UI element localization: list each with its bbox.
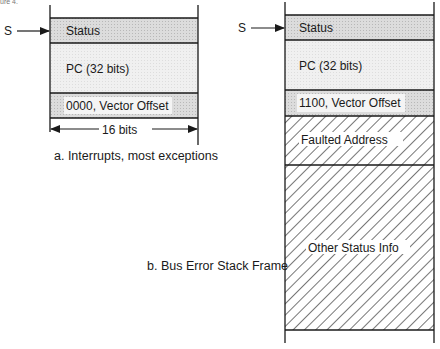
frame-b-stack-pointer-label: S: [238, 21, 246, 35]
frame-a: Status PC (32 bits) 0000, Vector Offset …: [4, 5, 218, 163]
frame-b-faulted-address-label: Faulted Address: [301, 133, 388, 147]
frame-b-caption: b. Bus Error Stack Frame: [147, 259, 288, 273]
frame-a-stack-pointer-label: S: [4, 24, 12, 38]
frame-b: Status PC (32 bits) 1100, Vector Offset …: [238, 2, 434, 343]
frame-b-status-label: Status: [299, 21, 333, 35]
width-label: 16 bits: [102, 123, 137, 137]
frame-b-other-status-label: Other Status Info: [308, 241, 399, 255]
stack-frame-diagram: ure 4. Status PC (32 bits) 0000, Vector …: [0, 0, 440, 349]
frame-b-pc-label: PC (32 bits): [299, 59, 362, 73]
frame-a-caption: a. Interrupts, most exceptions: [54, 149, 218, 163]
header-fragment: ure 4.: [0, 0, 18, 5]
frame-a-vector-label: 0000, Vector Offset: [66, 99, 169, 113]
frame-a-pc-label: PC (32 bits): [66, 62, 129, 76]
frame-a-status-label: Status: [66, 24, 100, 38]
frame-b-vector-label: 1100, Vector Offset: [299, 96, 401, 110]
